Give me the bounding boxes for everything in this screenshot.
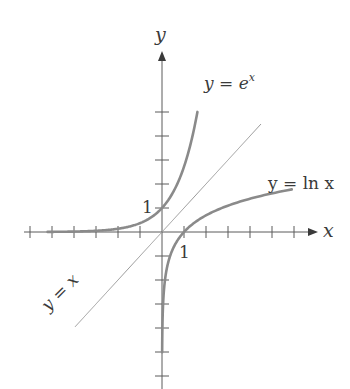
identity-line [75, 124, 261, 327]
x-axis-label: x [323, 221, 334, 240]
x-tick-label-one: 1 [179, 244, 190, 261]
x-axis-arrow-icon [308, 228, 318, 236]
y-axis-arrow-icon [158, 51, 166, 61]
ln-curve-label: y = ln x [268, 175, 334, 192]
exp-label-base: y = e [204, 73, 249, 93]
exp-curve [48, 112, 198, 232]
y-tick-label-one: 1 [142, 199, 153, 216]
exp-curve-label: y = ex [204, 72, 255, 92]
exp-label-exponent: x [249, 71, 255, 84]
ln-curve [162, 189, 292, 352]
y-axis-label: y [155, 25, 166, 44]
function-graph [0, 0, 350, 389]
